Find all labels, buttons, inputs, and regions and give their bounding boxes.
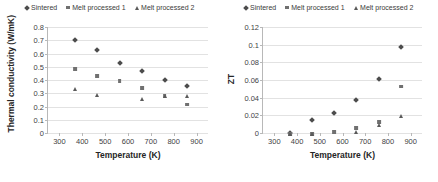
y-axis-tick-label: 0.06 <box>244 76 259 85</box>
square-marker-icon <box>66 6 70 10</box>
data-point <box>332 101 336 119</box>
triangle-marker-icon <box>135 6 139 10</box>
x-axis-tick-label: 800 <box>382 137 395 146</box>
triangle-marker-icon <box>185 94 189 98</box>
y-axis-tick-label: 0.6 <box>34 49 44 58</box>
x-axis-tickmark <box>82 133 83 136</box>
legend-label: Melt processed 1 <box>72 4 125 11</box>
x-axis-tickmark <box>197 133 198 136</box>
y-axis-tickmark <box>45 54 48 55</box>
data-point <box>73 77 77 95</box>
diamond-marker-icon <box>24 5 30 11</box>
x-axis-tick-label: 300 <box>268 137 281 146</box>
y-axis-tickmark <box>260 62 263 63</box>
x-axis-tickmark <box>411 133 412 136</box>
x-axis-tick-label: 900 <box>404 137 417 146</box>
data-point <box>399 74 403 92</box>
x-axis-tick-label: 800 <box>167 137 180 146</box>
triangle-marker-icon <box>310 132 314 136</box>
data-point <box>399 35 403 53</box>
data-point <box>95 64 99 82</box>
diamond-marker-icon <box>162 77 168 83</box>
diamond-marker-icon <box>376 76 382 82</box>
y-axis-tickmark <box>260 115 263 116</box>
y-axis-title: ZT <box>226 49 236 109</box>
panel-zt: SinteredMelt processed 1Melt processed 2… <box>219 0 438 182</box>
triangle-marker-icon <box>377 123 381 127</box>
y-axis-tickmark <box>45 40 48 41</box>
square-marker-icon <box>95 74 99 78</box>
square-marker-icon <box>185 103 189 107</box>
x-axis-tickmark <box>343 133 344 136</box>
x-axis-tick-label: 700 <box>145 137 158 146</box>
triangle-marker-icon <box>95 93 99 97</box>
y-axis-tickmark <box>260 133 263 134</box>
plot-area-thermal-conductivity: 00.10.20.30.40.50.60.70.8300400500600700… <box>47 27 208 134</box>
x-axis-tick-label: 500 <box>99 137 112 146</box>
x-axis-tickmark <box>105 133 106 136</box>
panel-thermal-conductivity: SinteredMelt processed 1Melt processed 2… <box>0 0 219 182</box>
square-marker-icon <box>118 79 122 83</box>
figure-two-panel-scatter: SinteredMelt processed 1Melt processed 2… <box>0 0 438 182</box>
legend-label: Melt processed 1 <box>291 4 344 11</box>
gridline-horizontal <box>263 62 422 63</box>
square-marker-icon <box>399 85 403 89</box>
legend-left: SinteredMelt processed 1Melt processed 2 <box>0 4 219 11</box>
y-axis-tickmark <box>260 45 263 46</box>
y-axis-tickmark <box>45 27 48 28</box>
y-axis-tick-label: 0.12 <box>244 23 259 32</box>
x-axis-tickmark <box>320 133 321 136</box>
y-axis-tick-label: 0.04 <box>244 93 259 102</box>
gridline-horizontal <box>263 98 422 99</box>
triangle-marker-icon <box>354 6 358 10</box>
y-axis-tickmark <box>45 93 48 94</box>
triangle-marker-icon <box>288 132 292 136</box>
diamond-marker-icon <box>398 44 404 50</box>
diamond-marker-icon <box>139 68 145 74</box>
data-point <box>185 84 189 102</box>
diamond-marker-icon <box>72 37 78 43</box>
data-point <box>117 51 121 69</box>
data-point <box>399 104 403 122</box>
y-axis-tick-label: 0 <box>255 129 259 138</box>
data-point <box>332 120 336 138</box>
y-axis-title: Thermal conductivity (W/mK) <box>5 26 15 133</box>
data-point <box>73 28 77 46</box>
gridline-horizontal <box>48 54 208 55</box>
x-axis-tick-label: 900 <box>190 137 203 146</box>
data-point <box>354 120 358 138</box>
y-axis-tick-label: 0 <box>40 129 44 138</box>
x-axis-tickmark <box>297 133 298 136</box>
y-axis-tick-label: 0.3 <box>34 89 44 98</box>
data-point <box>118 69 122 87</box>
triangle-marker-icon <box>73 87 77 91</box>
x-axis-tick-label: 700 <box>359 137 372 146</box>
x-axis-tick-label: 400 <box>291 137 304 146</box>
triangle-marker-icon <box>140 97 144 101</box>
gridline-horizontal <box>48 120 208 121</box>
diamond-marker-icon <box>353 97 359 103</box>
data-point <box>288 122 292 140</box>
data-point <box>74 57 78 75</box>
x-axis-tick-label: 600 <box>122 137 135 146</box>
data-point <box>95 38 99 56</box>
gridline-horizontal <box>48 67 208 68</box>
square-marker-icon <box>332 130 336 134</box>
gridline-horizontal <box>48 27 208 28</box>
x-axis-title: Temperature (K) <box>48 150 208 160</box>
y-axis-tickmark <box>45 67 48 68</box>
x-axis-tickmark <box>365 133 366 136</box>
y-axis-tickmark <box>260 27 263 28</box>
x-axis-tick-label: 600 <box>336 137 349 146</box>
y-axis-tick-label: 0.1 <box>34 115 44 124</box>
y-axis-tickmark <box>45 80 48 81</box>
y-axis-tickmark <box>45 107 48 108</box>
square-marker-icon <box>74 67 78 71</box>
y-axis-tick-label: 0.7 <box>34 36 44 45</box>
data-point <box>310 122 314 140</box>
triangle-marker-icon <box>399 114 403 118</box>
x-axis-title: Temperature (K) <box>263 150 422 160</box>
y-axis-tick-label: 0.08 <box>244 58 259 67</box>
y-axis-tick-label: 0.02 <box>244 111 259 120</box>
legend-entry-melt-processed-2: Melt processed 2 <box>135 4 195 11</box>
